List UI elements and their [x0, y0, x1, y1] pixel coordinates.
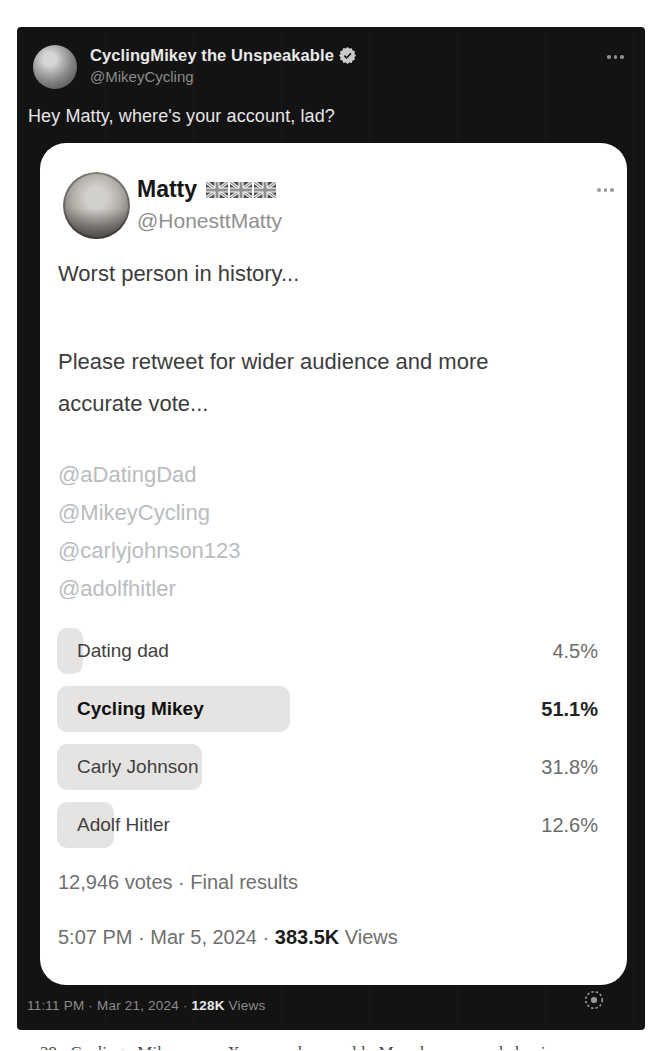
- more-menu-icon[interactable]: [607, 55, 624, 59]
- timestamp-text: 11:11 PM · Mar 21, 2024 ·: [27, 998, 192, 1013]
- tweet-text: Hey Matty, where's your account, lad?: [28, 106, 335, 127]
- views-count: 128K: [192, 998, 225, 1013]
- views-label: Views: [339, 926, 398, 948]
- timestamp-text: 5:07 PM · Mar 5, 2024 ·: [58, 926, 275, 948]
- emoji-badge-icon: [583, 989, 605, 1011]
- quoted-tweet-header: Matty @HonesttMatty: [137, 176, 282, 233]
- quoted-tweet-text-line2: Please retweet for wider audience and mo…: [58, 341, 563, 425]
- quoted-display-name[interactable]: Matty: [137, 176, 197, 203]
- poll-option-label: Cycling Mikey: [77, 686, 204, 732]
- views-count: 383.5K: [275, 926, 340, 948]
- page: CyclingMikey the Unspeakable @MikeyCycli…: [0, 0, 653, 1051]
- views-label: Views: [225, 998, 266, 1013]
- poll-option-row: Adolf Hitler 12.6%: [57, 802, 598, 848]
- poll-option-percentage: 31.8%: [541, 744, 598, 790]
- poll-option-percentage: 51.1%: [541, 686, 598, 732]
- tweet-timestamp: 11:11 PM · Mar 21, 2024 · 128K Views: [27, 998, 265, 1013]
- handle[interactable]: @MikeyCycling: [90, 68, 356, 85]
- poll-option-label: Adolf Hitler: [77, 802, 170, 848]
- mention-link[interactable]: @aDatingDad: [58, 456, 241, 494]
- poll-votes-summary: 12,946 votes · Final results: [58, 871, 298, 894]
- verified-badge-icon: [339, 47, 356, 64]
- uk-flag-icons: [206, 182, 276, 198]
- poll-option-percentage: 12.6%: [541, 802, 598, 848]
- display-name[interactable]: CyclingMikey the Unspeakable: [90, 46, 334, 65]
- mention-link[interactable]: @MikeyCycling: [58, 494, 241, 532]
- quoted-tweet-timestamp: 5:07 PM · Mar 5, 2024 · 383.5K Views: [58, 926, 398, 949]
- quoted-tweet-text-line1: Worst person in history...: [58, 261, 299, 287]
- poll-option-label: Dating dad: [77, 628, 169, 674]
- quoted-tweet-card[interactable]: Matty @HonesttMatty Worst person in hist…: [40, 143, 627, 985]
- quoted-avatar[interactable]: [63, 172, 130, 239]
- tweet-card: CyclingMikey the Unspeakable @MikeyCycli…: [17, 27, 645, 1030]
- quoted-more-menu-icon[interactable]: [597, 188, 614, 192]
- mention-link[interactable]: @carlyjohnson123: [58, 532, 241, 570]
- avatar[interactable]: [33, 45, 77, 89]
- page-caption-fragment: 29 Cycling Mikey, an X user, he could Ma…: [40, 1036, 640, 1050]
- poll-option-label: Carly Johnson: [77, 744, 198, 790]
- quoted-handle[interactable]: @HonesttMatty: [137, 209, 282, 233]
- outer-tweet-header: CyclingMikey the Unspeakable @MikeyCycli…: [90, 46, 356, 85]
- poll: Dating dad 4.5% Cycling Mikey 51.1% Carl…: [57, 628, 598, 860]
- mentions-list: @aDatingDad @MikeyCycling @carlyjohnson1…: [58, 456, 241, 608]
- poll-option-row: Carly Johnson 31.8%: [57, 744, 598, 790]
- poll-option-row: Dating dad 4.5%: [57, 628, 598, 674]
- poll-option-percentage: 4.5%: [552, 628, 598, 674]
- mention-link[interactable]: @adolfhitler: [58, 570, 241, 608]
- poll-option-row: Cycling Mikey 51.1%: [57, 686, 598, 732]
